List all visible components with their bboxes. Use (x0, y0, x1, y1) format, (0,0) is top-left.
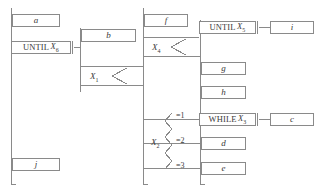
until-x6-box[interactable]: UNTIL X6 (11, 41, 71, 54)
until-x5-variable: X5 (236, 22, 246, 33)
while-x3-variable: X3 (236, 114, 246, 125)
process-box-b-label: b (106, 31, 111, 40)
process-box-a[interactable]: a (12, 14, 60, 27)
process-box-j[interactable]: j (12, 158, 60, 171)
process-box-d[interactable]: d (201, 137, 246, 150)
case-label-2: =2 (176, 137, 185, 145)
process-box-f[interactable]: f (144, 14, 188, 27)
process-box-e[interactable]: e (201, 162, 246, 175)
structogram-diagram: a b f i g h c d e j UNTIL X6 UNTIL X5 WH… (0, 0, 326, 193)
decision-label-x4[interactable]: X4 (152, 43, 161, 54)
process-box-g[interactable]: g (201, 62, 246, 75)
process-box-b[interactable]: b (81, 29, 136, 42)
case-label-3: =3 (176, 162, 185, 170)
process-box-i[interactable]: i (270, 21, 314, 34)
process-box-e-label: e (222, 164, 226, 173)
decision-label-x2[interactable]: X2 (151, 138, 160, 149)
while-x3-keyword: WHILE (209, 115, 237, 124)
until-x5-box[interactable]: UNTIL X5 (199, 21, 256, 34)
process-box-h[interactable]: h (201, 86, 246, 99)
decision-x1-subscript: 1 (96, 77, 99, 83)
until-x6-keyword: UNTIL (23, 43, 49, 52)
until-x6-variable: X6 (49, 42, 59, 53)
process-box-c[interactable]: c (270, 113, 314, 126)
process-box-c-label: c (290, 115, 294, 124)
process-box-i-label: i (291, 23, 294, 32)
brace-x2 (165, 113, 172, 145)
process-box-f-label: f (165, 16, 168, 25)
process-box-a-label: a (34, 16, 39, 25)
brace-x2-lower (165, 145, 172, 169)
while-x3-box[interactable]: WHILE X3 (199, 113, 256, 126)
fork-x4 (171, 39, 186, 55)
decision-x2-subscript: 2 (157, 143, 160, 149)
decision-x4-subscript: 4 (158, 48, 161, 54)
fork-x1 (112, 68, 127, 84)
case-label-1: =1 (176, 112, 185, 120)
process-box-j-label: j (35, 160, 38, 169)
process-box-h-label: h (221, 88, 226, 97)
process-box-d-label: d (221, 139, 226, 148)
decision-label-x1[interactable]: X1 (90, 72, 99, 83)
until-x5-keyword: UNTIL (210, 23, 236, 32)
process-box-g-label: g (221, 64, 226, 73)
